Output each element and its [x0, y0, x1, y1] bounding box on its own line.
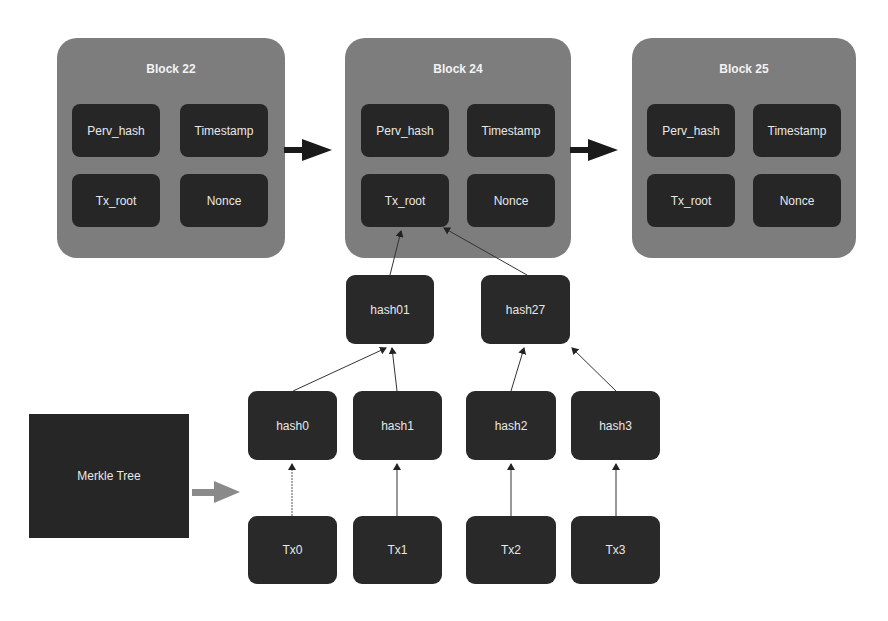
prev-hash-field: Perv_hash [647, 104, 735, 157]
tx-node-tx2: Tx2 [466, 516, 556, 584]
block-24: Block 24 Perv_hash Timestamp Tx_root Non… [345, 38, 571, 258]
chain-arrow-icon [570, 139, 618, 161]
prev-hash-field: Perv_hash [361, 104, 449, 157]
block-25: Block 25 Perv_hash Timestamp Tx_root Non… [632, 38, 856, 258]
hash-node-hash01: hash01 [346, 275, 434, 344]
tx-node-tx1: Tx1 [353, 516, 442, 584]
hash-node-hash3: hash3 [571, 391, 660, 460]
nonce-field: Nonce [180, 174, 268, 227]
merkle-arrow-icon [192, 481, 240, 503]
block-title: Block 25 [632, 62, 856, 76]
merkle-tree-label: Merkle Tree [29, 414, 189, 538]
hash-node-hash27: hash27 [481, 275, 570, 344]
timestamp-field: Timestamp [180, 104, 268, 157]
hash-node-hash0: hash0 [248, 391, 337, 460]
tx-root-field: Tx_root [647, 174, 735, 227]
prev-hash-field: Perv_hash [72, 104, 160, 157]
tx-root-field: Tx_root [72, 174, 160, 227]
nonce-field: Nonce [753, 174, 841, 227]
tx-node-tx0: Tx0 [248, 516, 337, 584]
tx-node-tx3: Tx3 [571, 516, 660, 584]
timestamp-field: Timestamp [467, 104, 555, 157]
timestamp-field: Timestamp [753, 104, 841, 157]
block-22: Block 22 Perv_hash Timestamp Tx_root Non… [57, 38, 285, 258]
block-title: Block 22 [57, 62, 285, 76]
hash-node-hash1: hash1 [353, 391, 442, 460]
tx-root-field: Tx_root [361, 174, 449, 227]
chain-arrow-icon [284, 139, 332, 161]
nonce-field: Nonce [467, 174, 555, 227]
block-title: Block 24 [345, 62, 571, 76]
hash-node-hash2: hash2 [466, 391, 556, 460]
